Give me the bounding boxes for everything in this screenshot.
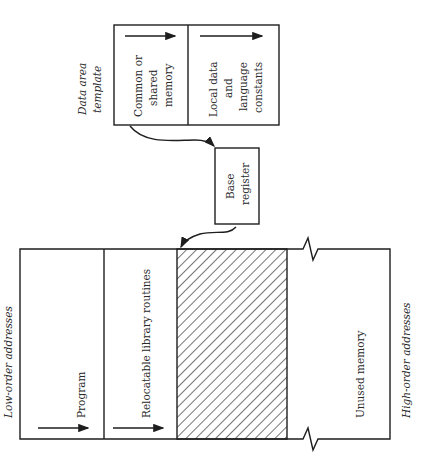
low-order-addresses-label: Low-order addresses [2,306,14,419]
common-shared-memory-label: Common or shared memory [132,54,174,117]
region-data-area-hatched [177,249,287,439]
region-program: Program [38,372,88,428]
svg-text:Data area: Data area [76,63,88,116]
svg-text:and: and [222,78,234,98]
svg-text:Local data: Local data [207,61,219,117]
high-order-addresses-label: High-order addresses [400,302,412,419]
svg-text:Program: Program [75,372,87,418]
data-area-template-caption: Data area template [76,63,103,116]
memory-map: Program Relocatable library routines Unu… [20,238,390,450]
svg-text:shared: shared [147,69,159,106]
base-register-box: Base register [215,148,259,224]
svg-text:language: language [237,62,249,111]
svg-text:Common or: Common or [132,54,144,117]
svg-text:Relocatable library routines: Relocatable library routines [140,269,152,418]
register-to-data-arrow-icon [181,227,236,247]
svg-text:register: register [239,162,251,205]
local-data-label: Local data and language constants [207,61,264,117]
unused-memory-label: Unused memory [354,330,366,418]
data-area-template-box: Common or shared memory Local data and l… [114,25,279,125]
svg-text:Base: Base [224,173,236,199]
svg-text:constants: constants [252,62,264,113]
template-to-register-arrow-icon [130,126,214,146]
region-relocatable-library: Relocatable library routines [113,269,163,428]
svg-text:template: template [91,66,103,113]
svg-text:memory: memory [162,64,174,107]
memory-layout-diagram: Data area template Common or shared memo… [0,0,427,464]
